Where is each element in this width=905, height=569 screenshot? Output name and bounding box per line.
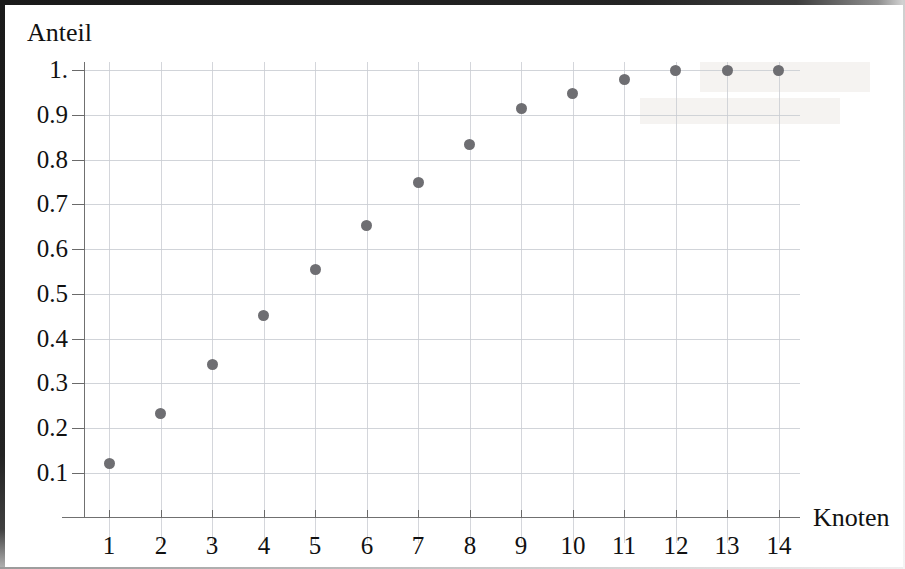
- gridline-vertical: [573, 62, 574, 543]
- gridline-vertical: [161, 62, 162, 543]
- data-point-marker: [361, 220, 372, 231]
- y-axis-tick: [72, 339, 85, 340]
- gridline-vertical: [212, 62, 213, 543]
- y-axis-tick: [72, 249, 85, 250]
- y-axis-tick: [72, 383, 85, 384]
- data-point-marker: [619, 74, 630, 85]
- y-axis-tick: [72, 70, 85, 71]
- x-axis-tick-label: 9: [491, 533, 551, 558]
- y-axis-tick: [72, 294, 85, 295]
- y-axis-tick-label: 0.9: [37, 102, 68, 127]
- y-axis-tick-label: 0.2: [37, 415, 68, 440]
- gridline-vertical: [676, 62, 677, 543]
- gridline-horizontal: [85, 428, 800, 429]
- x-axis-tick-label: 1: [79, 533, 139, 558]
- data-point-marker: [567, 88, 578, 99]
- y-axis-tick: [72, 473, 85, 474]
- gridline-horizontal: [85, 115, 800, 116]
- data-point-marker: [104, 458, 115, 469]
- x-axis-tick-label: 7: [388, 533, 448, 558]
- data-point-marker: [258, 310, 269, 321]
- x-axis-tick: [727, 510, 728, 518]
- y-axis-tick-label: 1.: [49, 57, 68, 82]
- scan-artifact: [640, 98, 840, 124]
- y-axis-tick-label: 0.4: [37, 326, 68, 351]
- x-axis-tick: [315, 510, 316, 518]
- gridline-horizontal: [85, 473, 800, 474]
- x-axis-tick-label: 3: [182, 533, 242, 558]
- y-axis-tick: [72, 160, 85, 161]
- y-axis-tick-label: 0.6: [37, 236, 68, 261]
- x-axis-tick: [779, 510, 780, 518]
- gridline-vertical: [109, 62, 110, 543]
- gridline-vertical: [264, 62, 265, 543]
- y-axis-tick-label: 0.7: [37, 191, 68, 216]
- data-point-marker: [722, 65, 733, 76]
- gridline-horizontal: [85, 249, 800, 250]
- x-axis-line: [62, 517, 800, 518]
- plot-area: 1.0.90.80.70.60.50.40.30.20.1 1234567891…: [0, 0, 905, 569]
- data-point-marker: [207, 359, 218, 370]
- y-axis-tick-label: 0.1: [37, 460, 68, 485]
- x-axis-tick-label: 11: [594, 533, 654, 558]
- gridline-horizontal: [85, 339, 800, 340]
- y-axis-tick-label: 0.3: [37, 370, 68, 395]
- y-axis-tick: [72, 204, 85, 205]
- gridline-horizontal: [85, 294, 800, 295]
- x-axis-tick-label: 13: [697, 533, 757, 558]
- x-axis-tick: [418, 510, 419, 518]
- data-point-marker: [670, 65, 681, 76]
- x-axis-tick: [624, 510, 625, 518]
- data-point-marker: [155, 408, 166, 419]
- gridline-vertical: [315, 62, 316, 543]
- y-axis-tick-label: 0.8: [37, 147, 68, 172]
- gridline-vertical: [624, 62, 625, 543]
- gridline-vertical: [521, 62, 522, 543]
- gridline-vertical: [470, 62, 471, 543]
- x-axis-tick: [521, 510, 522, 518]
- x-axis-tick: [161, 510, 162, 518]
- x-axis-title: Knoten: [813, 505, 890, 531]
- x-axis-tick: [573, 510, 574, 518]
- gridline-horizontal: [85, 383, 800, 384]
- gridline-vertical: [367, 62, 368, 543]
- x-axis-tick-label: 5: [285, 533, 345, 558]
- x-axis-tick: [367, 510, 368, 518]
- y-axis-tick: [72, 428, 85, 429]
- x-axis-tick: [676, 510, 677, 518]
- gridline-horizontal: [85, 70, 800, 71]
- x-axis-tick: [470, 510, 471, 518]
- data-point-marker: [773, 65, 784, 76]
- data-point-marker: [310, 264, 321, 275]
- y-axis-line: [84, 62, 85, 517]
- gridline-vertical: [727, 62, 728, 543]
- data-point-marker: [464, 139, 475, 150]
- x-axis-tick-label: 14: [749, 533, 809, 558]
- chart-figure: 1.0.90.80.70.60.50.40.30.20.1 1234567891…: [0, 0, 905, 569]
- x-axis-tick: [212, 510, 213, 518]
- data-point-marker: [413, 177, 424, 188]
- gridline-vertical: [779, 62, 780, 543]
- gridline-horizontal: [85, 204, 800, 205]
- y-axis-tick-label: 0.5: [37, 281, 68, 306]
- x-axis-tick: [109, 510, 110, 518]
- gridline-horizontal: [85, 160, 800, 161]
- data-point-marker: [516, 103, 527, 114]
- gridline-vertical: [418, 62, 419, 543]
- x-axis-tick: [264, 510, 265, 518]
- y-axis-title: Anteil: [27, 20, 92, 46]
- y-axis-tick: [72, 115, 85, 116]
